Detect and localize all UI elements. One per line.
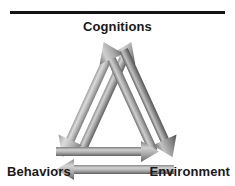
- node-label-environment: Environment: [149, 164, 230, 179]
- figure-canvas: Cognitions Behaviors Environment: [0, 0, 235, 186]
- node-label-cognitions: Cognitions: [0, 19, 235, 34]
- node-label-behaviors: Behaviors: [7, 164, 71, 179]
